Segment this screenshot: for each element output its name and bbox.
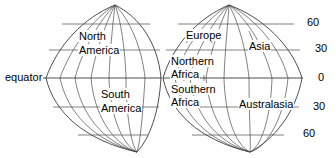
label-europe: Europe: [185, 29, 222, 41]
label-south-america-line1: South: [100, 88, 131, 100]
eastern-meridian-6: [229, 5, 272, 152]
western-meridian-1: [60, 5, 137, 152]
label-northern-africa-line2: Africa: [170, 68, 200, 80]
label-equator: equator: [4, 71, 43, 83]
lat-label-60-north: 60: [307, 16, 319, 28]
label-australasia: Australasia: [238, 98, 294, 110]
eastern-meridian-5: [229, 5, 250, 152]
label-north-america-line1: North: [78, 30, 107, 42]
eastern-lobe-right-edge: [229, 5, 302, 152]
eastern-meridian-4: [224, 5, 250, 152]
globe-lobes-diagram: North America South America Europe Asia …: [0, 0, 336, 158]
western-meridian-4: [109, 5, 137, 152]
lat-label-0-equator: 0: [318, 71, 324, 83]
map-graticule-svg: [0, 0, 336, 158]
lat-label-30-north: 30: [315, 42, 327, 54]
label-north-america-line2: America: [78, 44, 120, 56]
label-northern-africa-line1: Northern: [170, 55, 215, 67]
label-south-america-line2: America: [100, 102, 142, 114]
label-southern-africa-line1: Southern: [170, 83, 217, 95]
eastern-meridian-3: [206, 5, 250, 152]
lat-label-30-south: 30: [313, 100, 325, 112]
lat-label-60-south: 60: [303, 127, 315, 139]
western-meridian-2: [75, 5, 137, 152]
label-southern-africa-line2: Africa: [170, 96, 200, 108]
western-meridian-5: [115, 5, 137, 152]
western-lobe-right-edge: [115, 5, 161, 152]
label-asia: Asia: [248, 40, 271, 52]
eastern-meridian-7: [229, 5, 288, 152]
